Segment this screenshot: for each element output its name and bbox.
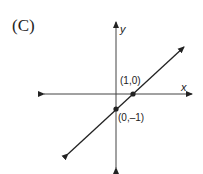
point-0-neg1 xyxy=(113,106,118,111)
graph: y x (1,0) (0,–1) xyxy=(0,0,203,174)
x-axis-label: x xyxy=(180,81,187,93)
point-1-0 xyxy=(130,91,135,96)
y-axis-label: y xyxy=(119,23,127,35)
point-label-1-0: (1,0) xyxy=(120,75,141,86)
point-label-0-neg1: (0,–1) xyxy=(118,112,144,123)
graph-line xyxy=(68,47,184,154)
